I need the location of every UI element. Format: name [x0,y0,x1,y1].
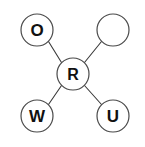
edge-r-to-o [49,42,62,63]
node-u-label: U [107,107,119,126]
node-blank-circle[interactable] [97,14,129,46]
node-r-label: R [67,66,79,83]
diagram-canvas: O W U R [0,0,145,147]
edge-r-to-u [85,86,102,105]
star-graph-diagram: O W U R [0,0,145,147]
edge-r-to-blank [85,42,102,63]
node-r-center[interactable]: R [57,58,89,90]
node-w[interactable]: W [21,100,53,132]
node-o-label: O [30,21,43,40]
node-blank[interactable] [97,14,129,46]
node-w-label: W [29,107,46,126]
node-u[interactable]: U [97,100,129,132]
edge-r-to-w [49,86,62,105]
node-o[interactable]: O [21,14,53,46]
